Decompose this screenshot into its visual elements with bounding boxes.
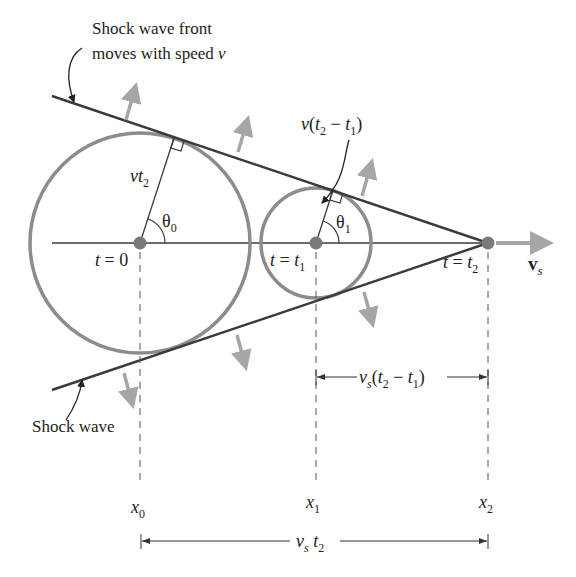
dashed-guides: [140, 252, 488, 480]
source-point-t0: [134, 237, 147, 250]
label-time-t1: t = t1: [270, 250, 305, 274]
label-position-x2: x2: [478, 492, 493, 516]
label-theta0: θ0: [162, 211, 177, 235]
label-radius-big: vt2: [130, 166, 149, 190]
label-time-t2: t = t2: [443, 252, 478, 276]
wavefront-normal-arrows-lower: [124, 292, 371, 399]
label-time-t0: t = 0: [95, 250, 128, 270]
annotation-shock-wave: Shock wave: [32, 417, 115, 436]
source-point-t1: [310, 237, 323, 250]
annotation-front-line2: moves with speed v: [92, 44, 226, 63]
label-dimension-partial: vs(t2 − t1): [359, 367, 425, 391]
source-point-t2: [482, 237, 495, 250]
label-dimension-total: vs t2: [296, 531, 324, 555]
label-position-x0: x0: [130, 497, 145, 521]
label-theta1: θ1: [336, 212, 351, 236]
wavefront-normal-arrows-upper: [126, 92, 370, 196]
shock-wave-diagram: Shock wave front moves with speed v Shoc…: [0, 0, 576, 577]
callout-arrow-front: [69, 48, 82, 102]
label-position-x1: x1: [305, 492, 320, 516]
label-source-velocity: vs: [528, 253, 543, 278]
annotation-front-line1: Shock wave front: [92, 19, 212, 38]
shock-wave-front-upper: [52, 96, 488, 243]
label-radius-small: v(t2 − t1): [301, 114, 362, 138]
callout-arrow-shock-wave: [66, 380, 82, 420]
